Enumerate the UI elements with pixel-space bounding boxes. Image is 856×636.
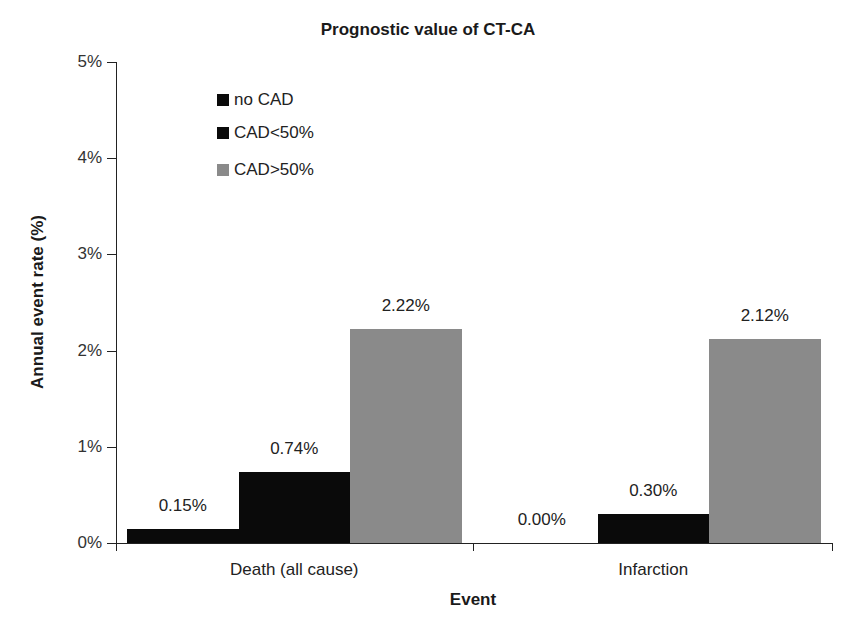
value-label: 0.74% <box>270 439 318 459</box>
x-tick-label: Death (all cause) <box>230 560 359 580</box>
y-tick <box>107 543 116 544</box>
y-tick-label: 0% <box>52 533 102 553</box>
value-label: 2.12% <box>741 306 789 326</box>
legend-item: CAD>50% <box>217 160 314 180</box>
y-axis-label: Annual event rate (%) <box>28 215 48 389</box>
legend-label: CAD>50% <box>234 160 314 180</box>
bar-cad-50- <box>239 472 351 543</box>
y-tick <box>107 62 116 63</box>
value-label: 0.00% <box>518 510 566 530</box>
x-tick <box>832 543 833 551</box>
x-tick <box>116 543 117 551</box>
y-tick-label: 4% <box>52 148 102 168</box>
chart-title: Prognostic value of CT-CA <box>0 20 856 40</box>
legend-item: no CAD <box>217 90 294 110</box>
bar-cad-50- <box>350 329 462 543</box>
y-tick <box>107 254 116 255</box>
y-axis-line <box>116 62 117 544</box>
x-tick <box>473 543 474 551</box>
y-tick <box>107 351 116 352</box>
legend-item: CAD<50% <box>217 123 314 143</box>
bar-chart: Prognostic value of CT-CA Annual event r… <box>0 0 856 636</box>
bar-cad-50- <box>598 514 710 543</box>
legend-swatch <box>217 127 229 139</box>
bar-no-cad <box>127 529 239 543</box>
legend-label: no CAD <box>234 90 294 110</box>
legend-swatch <box>217 94 229 106</box>
y-tick-label: 2% <box>52 341 102 361</box>
y-tick-label: 3% <box>52 244 102 264</box>
value-label: 2.22% <box>382 296 430 316</box>
bar-cad-50- <box>709 339 821 543</box>
x-tick-label: Infarction <box>618 560 688 580</box>
y-tick-label: 5% <box>52 52 102 72</box>
legend-label: CAD<50% <box>234 123 314 143</box>
value-label: 0.30% <box>629 481 677 501</box>
value-label: 0.15% <box>159 496 207 516</box>
y-tick <box>107 158 116 159</box>
y-tick <box>107 447 116 448</box>
legend-swatch <box>217 164 229 176</box>
y-tick-label: 1% <box>52 437 102 457</box>
x-axis-line <box>107 543 833 544</box>
x-axis-label: Event <box>450 590 496 610</box>
